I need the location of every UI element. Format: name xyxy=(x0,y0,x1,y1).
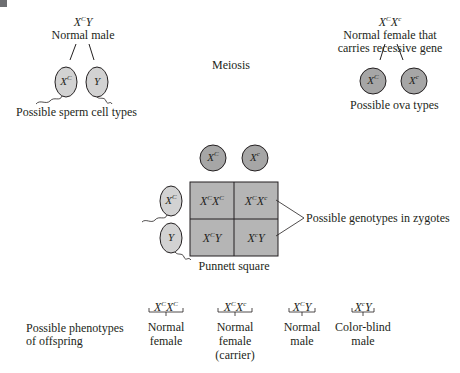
phenotypes-label-line1: Possible phenotypes xyxy=(26,321,124,335)
punnett-cell-2-2: XcY xyxy=(228,231,284,246)
phenotype-carrier-female: XCXc Normal female (carrier) xyxy=(205,302,265,362)
punnett-col-2-label: Xc xyxy=(243,151,267,163)
zygote-genotypes-callout: Possible genotypes in zygotes xyxy=(306,211,450,225)
father-meiosis-line-right xyxy=(89,44,94,60)
phenotypes-label-line2: of offspring xyxy=(26,334,83,348)
ova-types-label: Possible ova types xyxy=(350,98,439,112)
punnett-col-1-label: XC xyxy=(201,151,225,163)
mother-label-line1: Normal female that xyxy=(330,28,450,42)
sperm-types-label: Possible sperm cell types xyxy=(16,105,137,119)
phenotype-normal-female: XCXC Normal female xyxy=(136,302,196,348)
sperm-tail-y xyxy=(97,97,112,104)
father-genotype: XCY xyxy=(58,15,108,29)
ovum-xlc-label: Xc xyxy=(402,74,426,86)
sperm-tail-xc xyxy=(36,96,62,104)
ovum-xc-label: XC xyxy=(361,74,385,86)
father-label: Normal male xyxy=(38,28,128,42)
punnett-square-label: Punnett square xyxy=(194,259,274,273)
punnett-cell-1-2: XCXc xyxy=(228,194,284,209)
sperm-y-label: Y xyxy=(85,75,109,87)
phenotype-normal-male: XCY Normal male xyxy=(272,302,332,348)
meiosis-label: Meiosis xyxy=(212,58,250,72)
punnett-row-1-label: XC xyxy=(159,194,183,206)
father-meiosis-line-left xyxy=(70,44,76,60)
punnett-row-2-label: Y xyxy=(159,231,183,243)
sperm-xc-label: XC xyxy=(54,75,78,87)
mother-label-line2: carries recessive gene xyxy=(330,41,450,55)
phenotype-colorblind-male: XcY Color-blind male xyxy=(328,302,398,348)
mother-genotype: XCXc xyxy=(365,15,415,29)
